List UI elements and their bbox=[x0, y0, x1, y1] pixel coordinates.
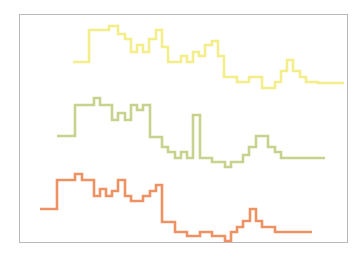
plot-area-frame bbox=[19, 14, 348, 243]
step-chart-figure bbox=[0, 0, 364, 258]
